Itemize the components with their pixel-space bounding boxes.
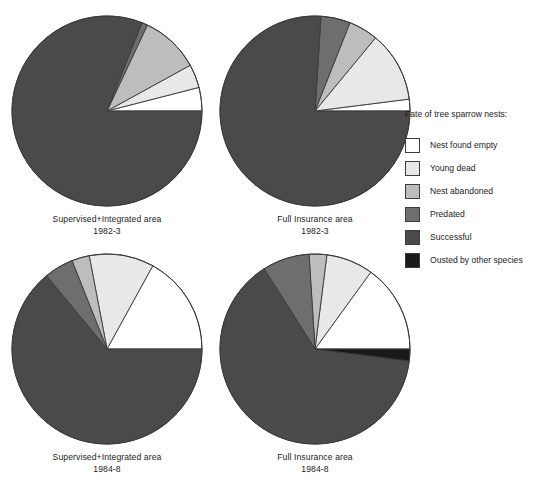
legend-item-young_dead: Young dead <box>405 157 547 180</box>
caption-line-1: Full Insurance area <box>277 214 352 224</box>
legend-swatch-empty <box>405 138 420 153</box>
pie-panel-full-insurance-1984-8: Full Insurance area 1984-8 <box>216 250 414 475</box>
legend-label-young_dead: Young dead <box>430 163 476 174</box>
legend-swatch-successful <box>405 230 420 245</box>
legend-label-predated: Predated <box>430 209 465 220</box>
legend-title: Fate of tree sparrow nests: <box>405 108 510 120</box>
caption-line-1: Full Insurance area <box>277 452 352 462</box>
legend-label-abandoned: Nest abandoned <box>430 186 493 197</box>
pie-panel-full-insurance-1982-3: Full Insurance area 1982-3 <box>216 12 414 237</box>
legend-item-successful: Successful <box>405 226 547 249</box>
caption-line-1: Supervised+Integrated area <box>53 214 162 224</box>
legend-item-predated: Predated <box>405 203 547 226</box>
pie-chart-bottom-right <box>216 250 414 448</box>
legend: Fate of tree sparrow nests: Nest found e… <box>405 108 547 272</box>
legend-label-successful: Successful <box>430 232 472 243</box>
legend-label-empty: Nest found empty <box>430 140 497 151</box>
pie-chart-top-right <box>216 12 414 210</box>
pie-panel-supervised-1982-3: Supervised+Integrated area 1982-3 <box>8 12 206 237</box>
pie-panel-supervised-1984-8: Supervised+Integrated area 1984-8 <box>8 250 206 475</box>
pie-caption-top-left: Supervised+Integrated area 1982-3 <box>53 214 162 237</box>
legend-swatch-young_dead <box>405 161 420 176</box>
caption-line-2: 1984-8 <box>277 464 352 476</box>
legend-swatch-predated <box>405 207 420 222</box>
caption-line-2: 1984-8 <box>53 464 162 476</box>
legend-swatch-ousted <box>405 253 420 268</box>
legend-swatch-abandoned <box>405 184 420 199</box>
caption-line-2: 1982-3 <box>53 226 162 238</box>
pie-caption-top-right: Full Insurance area 1982-3 <box>277 214 352 237</box>
caption-line-1: Supervised+Integrated area <box>53 452 162 462</box>
pie-caption-bottom-right: Full Insurance area 1984-8 <box>277 452 352 475</box>
legend-item-ousted: Ousted by other species <box>405 249 547 272</box>
pie-chart-figure: Supervised+Integrated area 1982-3 Full I… <box>0 0 547 487</box>
legend-item-abandoned: Nest abandoned <box>405 180 547 203</box>
pie-caption-bottom-left: Supervised+Integrated area 1984-8 <box>53 452 162 475</box>
pie-chart-bottom-left <box>8 250 206 448</box>
legend-label-ousted: Ousted by other species <box>430 255 523 266</box>
caption-line-2: 1982-3 <box>277 226 352 238</box>
legend-rows: Nest found emptyYoung deadNest abandoned… <box>405 134 547 272</box>
pie-chart-top-left <box>8 12 206 210</box>
legend-item-empty: Nest found empty <box>405 134 547 157</box>
